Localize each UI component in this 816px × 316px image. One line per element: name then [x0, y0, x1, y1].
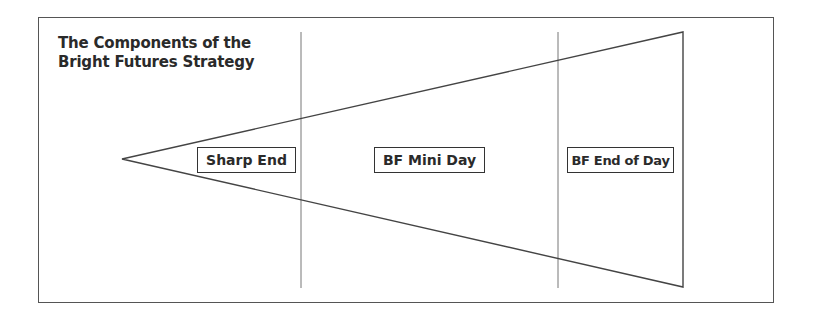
segment-label-bf-mini-day: BF Mini Day: [374, 147, 485, 173]
segment-label-text: BF End of Day: [571, 153, 669, 168]
segment-label-text: BF Mini Day: [383, 152, 476, 168]
segment-label-sharp-end: Sharp End: [197, 147, 296, 173]
segment-label-bf-end-of-day: BF End of Day: [567, 147, 674, 173]
segment-label-text: Sharp End: [206, 152, 287, 168]
